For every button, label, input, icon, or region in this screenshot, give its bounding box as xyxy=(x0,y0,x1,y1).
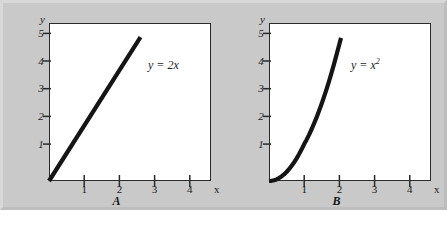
x-tick-label-4-b: 4 xyxy=(403,184,417,195)
panel-a: y x 5 4 3 2 1 1 2 3 4 y = 2x A xyxy=(11,3,222,213)
y-axis-label-b: y xyxy=(260,14,265,25)
equation-label-b: y = x2 xyxy=(351,59,380,71)
panel-caption-b: B xyxy=(231,195,442,207)
y-tick-label-2-b: 2 xyxy=(254,111,268,122)
figure-root: y x 5 4 3 2 1 1 2 3 4 y = 2x A xyxy=(0,0,447,228)
y-tick-label-1-b: 1 xyxy=(254,139,268,150)
plot-area-b xyxy=(269,23,431,181)
equation-exponent-b: 2 xyxy=(376,57,380,66)
x-tick-label-4-a: 4 xyxy=(183,184,197,195)
y-tick-label-4-a: 4 xyxy=(34,56,48,67)
x-tick-label-1-b: 1 xyxy=(297,184,311,195)
figure-background-plate: y x 5 4 3 2 1 1 2 3 4 y = 2x A xyxy=(0,0,447,210)
y-tick-label-2-a: 2 xyxy=(34,111,48,122)
y-tick-label-5-b: 5 xyxy=(254,28,268,39)
y-tick-label-3-b: 3 xyxy=(254,83,268,94)
x-tick-label-3-b: 3 xyxy=(368,184,382,195)
y-tick-label-4-b: 4 xyxy=(254,56,268,67)
panel-b: y x 5 4 3 2 1 1 2 3 4 y = x2 B xyxy=(231,3,442,213)
equation-label-a: y = 2x xyxy=(148,59,179,71)
y-tick-label-1-a: 1 xyxy=(34,139,48,150)
x-tick-label-3-a: 3 xyxy=(148,184,162,195)
x-axis-label-b: x xyxy=(434,184,440,195)
x-axis-label-a: x xyxy=(214,184,220,195)
y-axis-label-a: y xyxy=(40,14,45,25)
y-tick-label-3-a: 3 xyxy=(34,83,48,94)
y-tick-label-5-a: 5 xyxy=(34,28,48,39)
equation-base-b: y = x xyxy=(351,58,376,72)
panel-caption-a: A xyxy=(11,195,222,207)
x-tick-label-1-a: 1 xyxy=(77,184,91,195)
plot-area-a xyxy=(49,23,211,181)
